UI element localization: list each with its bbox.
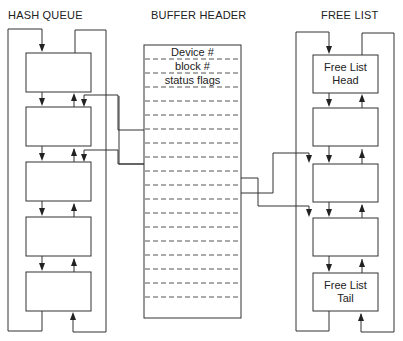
field-status-flags: status flags [144,74,241,87]
free-node-4 [313,218,378,256]
hash-queue-nodes [26,53,91,311]
hash-next-pointer [84,95,144,130]
hash-node-2 [26,107,91,146]
field-block: block # [144,60,241,73]
free-node-2 [313,108,378,146]
tail-label-line1: Free List [313,279,378,292]
free-list-head-label: Free List Head [313,61,378,87]
hash-wrap-forward [8,29,42,331]
free-node-3 [313,164,378,202]
free-next-pointer [241,153,309,193]
free-list-nodes [313,55,378,311]
head-label-line2: Head [313,74,378,87]
tail-label-line2: Tail [313,292,378,305]
hash-wrap-backward [73,30,106,332]
hash-node-3 [26,162,91,201]
field-device: Device # [144,46,241,59]
head-label-line1: Free List [313,61,378,74]
hash-prev-pointer [84,150,144,164]
hash-node-4 [26,217,91,256]
hash-node-1 [26,53,91,92]
free-list-tail-label: Free List Tail [313,279,378,305]
free-prev-pointer [241,193,309,213]
hash-node-5 [26,272,91,311]
